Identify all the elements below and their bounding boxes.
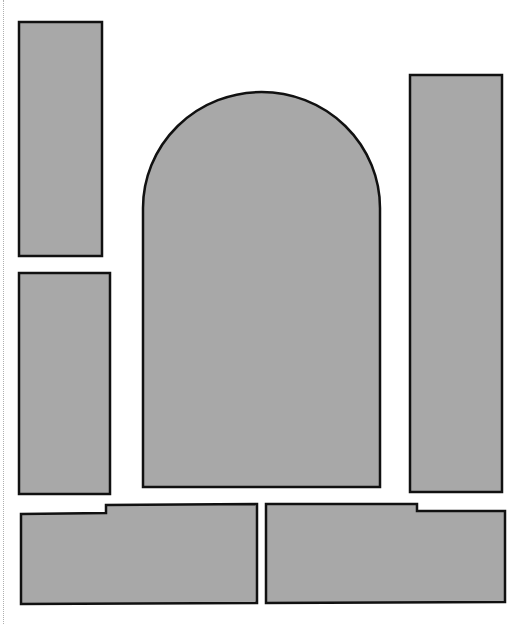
arch-center xyxy=(143,92,380,487)
notched-bottom-right xyxy=(266,504,505,603)
rect-top-left xyxy=(19,22,102,256)
shape-canvas xyxy=(0,0,519,624)
notched-bottom-left xyxy=(21,504,257,604)
rect-right xyxy=(410,75,502,492)
rect-mid-left xyxy=(19,273,110,494)
